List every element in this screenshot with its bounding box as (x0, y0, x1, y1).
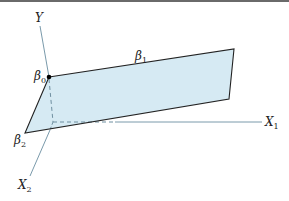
y-axis-label: Y (35, 11, 44, 25)
x1-axis-label: X1 (264, 115, 279, 131)
intercept-point (47, 75, 52, 80)
x2-axis (30, 130, 50, 176)
regression-plane-diagram: Y β0 β1 β2 X1 X2 (0, 0, 289, 201)
x2-axis-label: X2 (17, 178, 32, 194)
b1-label: β1 (134, 49, 147, 65)
regression-plane (25, 49, 234, 133)
b2-label: β2 (13, 133, 26, 149)
b0-label: β0 (33, 69, 46, 85)
y-axis (40, 26, 49, 77)
